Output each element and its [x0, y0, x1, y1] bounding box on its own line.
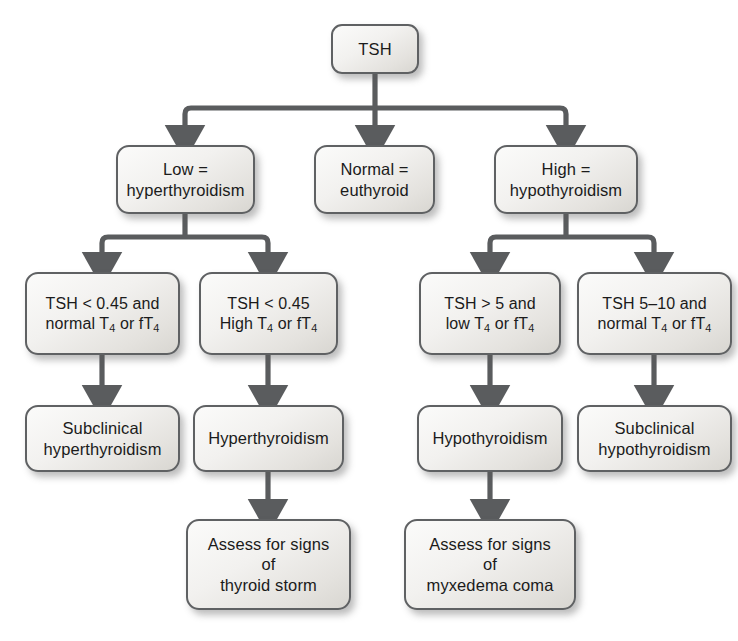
node-normal-euthyroid-label: Normal = euthyroid — [340, 159, 409, 199]
node-hyperthyroidism-label: Hyperthyroidism — [208, 428, 329, 448]
node-subclinical-hypothyroidism[interactable]: Subclinical hypothyroidism — [577, 405, 732, 472]
node-cond-tsh-low-high-t4-label: TSH < 0.45High T4 or fT4 — [220, 294, 318, 333]
node-subclinical-hyperthyroidism-label: Subclinical hyperthyroidism — [44, 418, 162, 458]
node-cond-tsh-low-high-t4[interactable]: TSH < 0.45High T4 or fT4 — [199, 272, 338, 355]
node-cond-tsh-high-normal-t4-label: TSH 5–10 andnormal T4 or fT4 — [598, 294, 712, 333]
node-assess-myxedema-coma-label: Assess for signs of myxedema coma — [427, 534, 554, 594]
subscript-4: 4 — [311, 322, 317, 334]
flowchart-canvas: TSH Low = hyperthyroidism Normal = euthy… — [0, 0, 738, 641]
node-high-hypothyroidism[interactable]: High = hypothyroidism — [494, 145, 638, 214]
edge-root-to-high — [375, 108, 566, 139]
subscript-4: 4 — [705, 322, 711, 334]
node-low-hyperthyroidism[interactable]: Low = hyperthyroidism — [116, 145, 255, 214]
node-cond-tsh-low-normal-t4-label: TSH < 0.45 andnormal T4 or fT4 — [46, 294, 160, 333]
node-assess-thyroid-storm-label: Assess for signs of thyroid storm — [208, 534, 330, 594]
node-assess-thyroid-storm[interactable]: Assess for signs of thyroid storm — [186, 519, 351, 610]
node-cond-tsh-high-low-t4-label: TSH > 5 andlow T4 or fT4 — [444, 294, 535, 333]
node-low-hyperthyroidism-label: Low = hyperthyroidism — [127, 159, 245, 199]
node-normal-euthyroid[interactable]: Normal = euthyroid — [314, 145, 435, 214]
node-subclinical-hypothyroidism-label: Subclinical hypothyroidism — [598, 418, 710, 458]
node-subclinical-hyperthyroidism[interactable]: Subclinical hyperthyroidism — [25, 405, 180, 472]
edge-low-to-cond-high-t4 — [185, 237, 268, 266]
node-cond-tsh-low-normal-t4[interactable]: TSH < 0.45 andnormal T4 or fT4 — [25, 272, 180, 355]
subscript-4: 4 — [528, 322, 534, 334]
edge-root-to-low — [185, 108, 375, 139]
node-hyperthyroidism[interactable]: Hyperthyroidism — [193, 405, 344, 472]
node-hypothyroidism-label: Hypothyroidism — [432, 428, 547, 448]
edge-high-to-cond-normal-t4 — [566, 237, 654, 266]
node-assess-myxedema-coma[interactable]: Assess for signs of myxedema coma — [404, 519, 576, 610]
edge-high-to-cond-low-t4 — [490, 237, 566, 266]
node-hypothyroidism[interactable]: Hypothyroidism — [417, 405, 563, 472]
subscript-4: 4 — [153, 322, 159, 334]
node-cond-tsh-high-low-t4[interactable]: TSH > 5 andlow T4 or fT4 — [419, 272, 561, 355]
node-tsh[interactable]: TSH — [331, 24, 419, 74]
node-tsh-label: TSH — [358, 39, 391, 59]
edge-low-to-cond-normal-t4 — [102, 237, 185, 266]
node-cond-tsh-high-normal-t4[interactable]: TSH 5–10 andnormal T4 or fT4 — [577, 272, 732, 355]
node-high-hypothyroidism-label: High = hypothyroidism — [510, 159, 622, 199]
